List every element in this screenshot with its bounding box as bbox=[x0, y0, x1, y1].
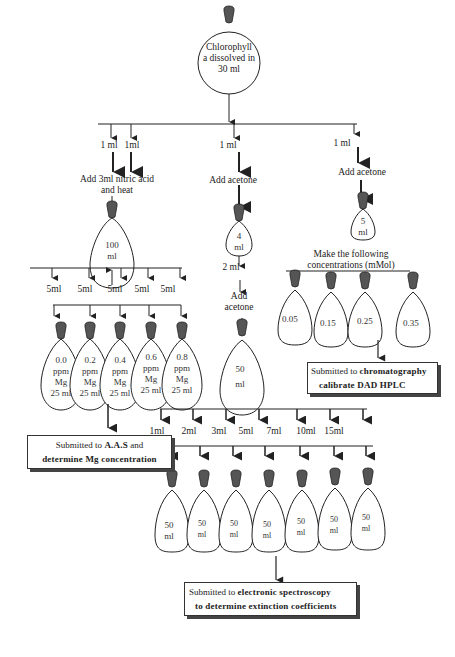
aliquot-label: 3ml bbox=[212, 426, 227, 437]
mg-standard-label: 0.2ppmMg25 ml bbox=[77, 355, 103, 399]
transfer-volume-label: 2 ml bbox=[222, 262, 239, 273]
source-flask-label: Chlorophyll a dissolved in 30 ml bbox=[203, 42, 255, 75]
aliquot-label: 5ml bbox=[135, 284, 150, 295]
flask-4ml-label: 4 ml bbox=[231, 231, 247, 253]
concentration-label: 0.15 bbox=[320, 318, 336, 329]
aliquot-label: 5ml bbox=[239, 426, 254, 437]
flask-50ml-label: 50 ml bbox=[228, 364, 252, 390]
extinction-flask-label: 50ml bbox=[292, 516, 310, 538]
add-acetone-step-2: Add acetone bbox=[224, 291, 253, 313]
mg-standard-label: 0.4ppmMg25 ml bbox=[107, 355, 133, 399]
flask-5ml-label: 5 ml bbox=[356, 216, 370, 238]
aas-result-box: Submitted to A.A.S and determine Mg conc… bbox=[27, 435, 172, 469]
aliquot-label: 2ml bbox=[182, 426, 197, 437]
extinction-flask-label: 50ml bbox=[225, 518, 243, 540]
concentrations-title: Make the following concentrations (mMol) bbox=[307, 249, 394, 271]
hplc-result-box: Submitted to chromatography calibrate DA… bbox=[307, 362, 438, 394]
mg-standard-label: 0.0ppmMg25 ml bbox=[48, 355, 74, 399]
split-volume-label: 1ml bbox=[125, 140, 140, 151]
nitric-acid-step: Add 3ml nitric acid and heat bbox=[80, 174, 154, 196]
split-volume-label: 1 ml bbox=[219, 140, 236, 151]
extinction-flask-label: 50ml bbox=[160, 520, 178, 542]
split-volume-label: 1 ml bbox=[333, 138, 350, 149]
aliquot-label: 15ml bbox=[324, 426, 344, 437]
extinction-flask-label: 50ml bbox=[357, 512, 375, 534]
add-acetone-step-hplc: Add acetone bbox=[338, 167, 386, 178]
concentration-label: 0.25 bbox=[357, 316, 373, 327]
aliquot-label: 5ml bbox=[78, 284, 93, 295]
aliquot-label: 5ml bbox=[47, 284, 62, 295]
extinction-flask-label: 50ml bbox=[193, 518, 211, 540]
aliquot-label: 1ml bbox=[150, 426, 165, 437]
hplc-concentration-flasks bbox=[278, 270, 430, 347]
extinction-flask-label: 50ml bbox=[258, 519, 276, 541]
aliquot-label: 5ml bbox=[161, 284, 176, 295]
spectroscopy-result-box: Submitted to electronic spectroscopy to … bbox=[184, 582, 357, 616]
digest-flask-label: 100 ml bbox=[100, 240, 124, 262]
aliquot-label: 5ml bbox=[108, 284, 123, 295]
concentration-label: 0.05 bbox=[282, 314, 298, 325]
add-acetone-step: Add acetone bbox=[209, 175, 257, 186]
mg-standard-label: 0.8ppmMg25 ml bbox=[169, 352, 195, 396]
flowchart-canvas bbox=[0, 0, 455, 657]
concentration-label: 0.35 bbox=[403, 318, 419, 329]
aliquot-label: 7ml bbox=[267, 426, 282, 437]
extinction-flask-label: 50ml bbox=[325, 514, 343, 536]
aliquot-label: 10ml bbox=[296, 426, 316, 437]
split-volume-label: 1 ml bbox=[100, 140, 117, 151]
mg-standard-label: 0.6ppmMg25 ml bbox=[138, 352, 164, 396]
